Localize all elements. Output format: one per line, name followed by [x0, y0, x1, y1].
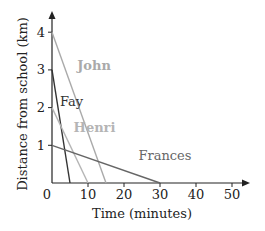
- x-tick-label: 40: [188, 187, 205, 202]
- series-label-henri: Henri: [74, 120, 116, 135]
- y-axis-label: Distance from school (km): [15, 17, 30, 191]
- y-tick-label: 3: [37, 62, 45, 77]
- y-tick-label: 1: [37, 138, 45, 153]
- series-lines: JohnFayHenriFrances: [52, 32, 191, 183]
- x-tick-label: 30: [152, 187, 169, 202]
- distance-time-chart: 01020304050 1234 JohnFayHenriFrances Tim…: [0, 0, 265, 231]
- y-ticks: 1234: [37, 25, 52, 153]
- series-label-fay: Fay: [60, 94, 84, 109]
- x-tick-label: 10: [80, 187, 97, 202]
- x-ticks: 01020304050: [43, 183, 240, 202]
- y-tick-label: 4: [37, 25, 45, 40]
- x-tick-label: 0: [43, 187, 51, 202]
- series-label-john: John: [76, 58, 111, 73]
- x-tick-label: 50: [224, 187, 241, 202]
- y-axis-arrow-icon: [49, 11, 56, 19]
- x-axis-label: Time (minutes): [92, 206, 192, 221]
- x-tick-label: 20: [116, 187, 133, 202]
- x-axis-arrow-icon: [242, 180, 250, 187]
- y-tick-label: 2: [37, 100, 45, 115]
- series-label-frances: Frances: [138, 148, 191, 163]
